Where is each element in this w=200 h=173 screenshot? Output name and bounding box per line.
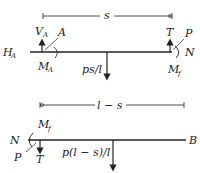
- tension-T-left-label: T: [36, 153, 45, 166]
- reaction-VA-label: V A: [35, 25, 48, 39]
- point-A-label: A: [57, 26, 66, 39]
- bottom-dimension-line: l − s: [40, 99, 184, 112]
- reaction-HA-label: H A: [2, 46, 16, 60]
- force-P-leader: [173, 39, 184, 50]
- end-B-label: B: [188, 134, 197, 147]
- moment-Mf-label: M f: [167, 63, 182, 78]
- force-P-left-label: P: [13, 151, 22, 164]
- svg-text:f: f: [47, 125, 52, 133]
- svg-text:A: A: [10, 52, 16, 60]
- load-p-l-s-label: p(l − s)/l: [62, 146, 111, 159]
- tension-T-label: T: [166, 26, 175, 39]
- svg-text:f: f: [177, 70, 182, 78]
- svg-text:A: A: [47, 66, 53, 74]
- moment-MA-label: M A: [37, 60, 53, 74]
- axial-N-left-label: N: [9, 134, 20, 147]
- force-P-left-leader: [26, 143, 36, 152]
- top-dimension-line: s: [43, 9, 172, 22]
- top-dimension-label: s: [104, 9, 110, 22]
- beam-diagram: s H A V A A M A ps/l T P N M f l − s: [0, 0, 200, 173]
- bottom-dimension-label: l − s: [97, 99, 123, 112]
- svg-text:A: A: [42, 31, 48, 39]
- force-P-label: P: [184, 27, 193, 40]
- load-ps-l-label: ps/l: [82, 63, 102, 76]
- moment-Mf-left-label: M f: [37, 118, 52, 133]
- point-A-leader: [45, 38, 58, 50]
- axial-N-label: N: [184, 46, 195, 59]
